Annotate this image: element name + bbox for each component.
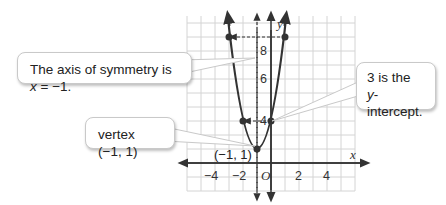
- x-axis-label: x: [349, 147, 356, 162]
- origin-label: O: [261, 168, 271, 183]
- x-tick-4: 4: [323, 169, 330, 183]
- y-tick-4: 4: [260, 114, 267, 128]
- vertex-coordinate-label: (−1, 1): [214, 147, 252, 162]
- vertex-point: [254, 146, 261, 153]
- x-tick-neg2: −2: [232, 169, 246, 183]
- vertex-callout-pointer: [165, 127, 255, 146]
- x-tick-2: 2: [295, 169, 302, 183]
- y-tick-8: 8: [260, 44, 267, 58]
- x-tick-neg4: −4: [204, 169, 218, 183]
- y-intercept-callout: 3 is the y-intercept.: [356, 62, 436, 110]
- point-neg2-3: [240, 118, 247, 125]
- y-tick-6: 6: [260, 72, 267, 86]
- y-axis-label: y: [275, 16, 283, 31]
- vertex-callout: vertex (−1, 1): [85, 117, 175, 149]
- point-1-9: [282, 34, 289, 41]
- point-neg3-9: [226, 34, 233, 41]
- axis-symmetry-callout: The axis of symmetry is x = −1.: [17, 52, 192, 84]
